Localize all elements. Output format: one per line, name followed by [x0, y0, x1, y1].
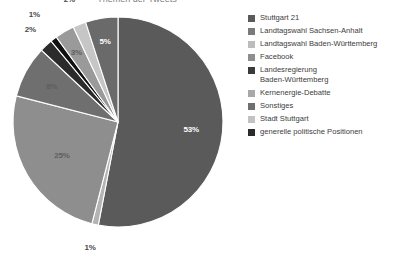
slice-percentage-label: 3%: [71, 47, 82, 56]
legend-swatch-icon: [248, 67, 255, 74]
legend-item[interactable]: Sonstiges: [248, 101, 398, 111]
legend-item[interactable]: Landtagswahl Sachsen-Anhalt: [248, 26, 398, 36]
legend-swatch-icon: [248, 103, 255, 110]
legend-item-label: Sonstiges: [260, 101, 293, 111]
slice-percentage-label: 5%: [100, 37, 111, 46]
legend-item[interactable]: Landtagswahl Baden-Württemberg: [248, 39, 398, 49]
legend-item[interactable]: Kernenergie-Debatte: [248, 88, 398, 98]
legend-item[interactable]: Stuttgart 21: [248, 13, 398, 23]
legend-swatch-icon: [248, 15, 255, 22]
pie-chart-figure: Themen der Tweets 53%1%25%8%2%1%3%2%5% S…: [0, 0, 401, 267]
chart-title-cutoff: Themen der Tweets: [52, 0, 222, 5]
legend-swatch-icon: [248, 28, 255, 35]
legend-swatch-icon: [248, 116, 255, 123]
chart-legend: Stuttgart 21Landtagswahl Sachsen-AnhaltL…: [248, 13, 398, 140]
legend-item-label: Facebook: [260, 52, 293, 62]
slice-percentage-label: 2%: [25, 24, 36, 33]
legend-swatch-icon: [248, 90, 255, 97]
legend-swatch-icon: [248, 129, 255, 136]
slice-percentage-label: 25%: [54, 151, 69, 160]
legend-item-label: Stuttgart 21: [260, 13, 299, 23]
legend-item[interactable]: generelle politische Positionen: [248, 127, 398, 137]
chart-title-text: Themen der Tweets: [52, 0, 222, 4]
legend-item-label: Kernenergie-Debatte: [260, 88, 331, 98]
legend-item[interactable]: Stadt Stuttgart: [248, 114, 398, 124]
pie-slice-group: [13, 17, 223, 227]
legend-item-label: Stadt Stuttgart: [260, 114, 309, 124]
pie-svg: [0, 8, 240, 248]
slice-percentage-label: 1%: [29, 10, 40, 19]
legend-swatch-icon: [248, 54, 255, 61]
legend-item-label: generelle politische Positionen: [260, 127, 363, 137]
slice-percentage-label: 2%: [64, 0, 75, 4]
slice-percentage-label: 8%: [46, 81, 57, 90]
slice-percentage-label: 1%: [84, 243, 95, 252]
legend-item-label: Landtagswahl Sachsen-Anhalt: [260, 26, 363, 36]
legend-item-label: Landtagswahl Baden-Württemberg: [260, 39, 377, 49]
slice-percentage-label: 53%: [183, 124, 198, 133]
legend-item[interactable]: Landesregierung Baden-Württemberg: [248, 65, 398, 84]
legend-item-label: Landesregierung Baden-Württemberg: [260, 65, 328, 84]
pie-plot-area: [0, 8, 240, 248]
legend-swatch-icon: [248, 41, 255, 48]
legend-item[interactable]: Facebook: [248, 52, 398, 62]
